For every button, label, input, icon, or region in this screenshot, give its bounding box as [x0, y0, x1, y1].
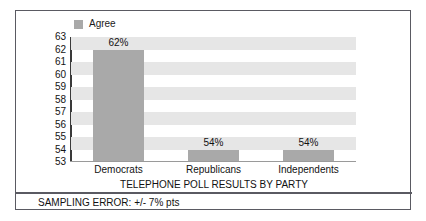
footnote-separator	[16, 192, 412, 194]
y-axis-tick-label: 61	[55, 57, 66, 67]
plot-area: 62%54%54%	[71, 37, 356, 162]
sampling-error-note: SAMPLING ERROR: +/- 7% pts	[38, 196, 179, 209]
bar-value-label: 54%	[188, 138, 239, 148]
x-axis-title: TELEPHONE POLL RESULTS BY PARTY	[16, 179, 412, 191]
x-axis-category-labels: DemocratsRepublicansIndependents	[71, 164, 356, 178]
legend-color-swatch	[74, 20, 83, 29]
y-axis-tick-label: 53	[55, 157, 66, 167]
y-axis-tick-label: 58	[55, 95, 66, 105]
x-axis-line	[70, 161, 356, 162]
y-axis-tick-label: 56	[55, 120, 66, 130]
y-axis-tick-label: 59	[55, 82, 66, 92]
chart-card: Agree 6362616059585756555453 62%54%54% D…	[15, 10, 411, 210]
bar	[93, 50, 144, 163]
x-axis-category-label: Democrats	[71, 164, 166, 176]
y-axis-tick-label: 57	[55, 107, 66, 117]
y-axis-tick-label: 63	[55, 32, 66, 42]
y-axis-tick-label: 62	[55, 45, 66, 55]
bar-value-label: 54%	[283, 138, 334, 148]
y-axis-tick-label: 55	[55, 132, 66, 142]
chart-legend: Agree	[74, 17, 116, 31]
y-axis-tick-labels: 6362616059585756555453	[46, 37, 66, 162]
y-axis-tick-label: 54	[55, 145, 66, 155]
plot-region: 6362616059585756555453 62%54%54% Democra…	[16, 37, 412, 167]
y-axis-tick-label: 60	[55, 70, 66, 80]
x-axis-category-label: Independents	[261, 164, 356, 176]
x-axis-category-label: Republicans	[166, 164, 261, 176]
bar-value-label: 62%	[93, 38, 144, 48]
legend-item-label: Agree	[89, 19, 116, 29]
